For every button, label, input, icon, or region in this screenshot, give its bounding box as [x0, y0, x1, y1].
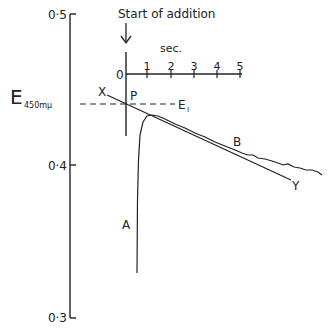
e1-label: E: [178, 98, 186, 112]
y-axis-label-subscript: 450mμ: [24, 101, 52, 110]
b-label: B: [233, 135, 241, 149]
time-tick-4: 4: [214, 60, 221, 73]
y-tick-0.5: 0·5: [48, 8, 67, 22]
time-tick-2: 2: [168, 60, 175, 73]
arrow-down-icon: [121, 23, 131, 43]
a-label: A: [122, 218, 131, 232]
time-axis: 0 1 2 3 4 5 sec.: [116, 42, 244, 82]
x-label: X: [98, 85, 106, 99]
absorbance-trace: [137, 115, 322, 273]
y-axis: 0·5 0·4 0·3: [48, 8, 76, 325]
extrapolation-line-xy: [107, 95, 291, 180]
y-axis-label: E: [10, 85, 23, 109]
start-of-addition-label: Start of addition: [118, 7, 215, 21]
time-tick-0: 0: [116, 68, 124, 82]
time-tick-3: 3: [191, 60, 198, 73]
figure: 0·5 0·4 0·3 E 450mμ Start of addition 0 …: [0, 0, 332, 333]
e1-subscript: I: [187, 106, 189, 114]
y-tick-0.3: 0·3: [48, 311, 67, 325]
y-label: Y: [291, 179, 300, 193]
time-tick-5: 5: [237, 60, 244, 73]
p-label: P: [130, 89, 137, 103]
y-tick-0.4: 0·4: [48, 159, 67, 173]
time-tick-1: 1: [144, 60, 151, 73]
time-axis-title: sec.: [160, 42, 182, 55]
